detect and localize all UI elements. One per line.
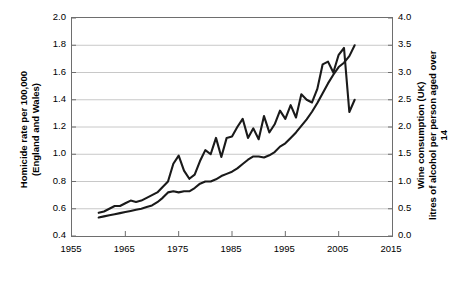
y-axis-right-ticks bbox=[388, 18, 392, 236]
y-axis-left-tick-label: 0.8 bbox=[40, 175, 66, 186]
x-axis-tick-label: 1965 bbox=[104, 243, 144, 254]
y-axis-right-tick-label: 0.0 bbox=[398, 229, 424, 240]
x-axis-ticks bbox=[125, 231, 338, 236]
y-axis-right-tick-label: 1.5 bbox=[398, 147, 424, 158]
y-axis-left-tick-label: 0.4 bbox=[40, 229, 66, 240]
y-axis-right-tick-label: 2.5 bbox=[398, 93, 424, 104]
y-axis-left-tick-label: 1.2 bbox=[40, 120, 66, 131]
y-axis-right-tick-label: 0.5 bbox=[398, 202, 424, 213]
y-axis-left-tick-label: 0.6 bbox=[40, 202, 66, 213]
x-axis-tick-label: 2005 bbox=[318, 243, 358, 254]
y-axis-left-tick-label: 1.0 bbox=[40, 147, 66, 158]
y-axis-right-tick-label: 1.0 bbox=[398, 175, 424, 186]
y-axis-left-tick-label: 1.6 bbox=[40, 66, 66, 77]
y-axis-right-tick-label: 4.0 bbox=[398, 11, 424, 22]
gridlines bbox=[72, 45, 392, 209]
series-line-wine-consumption bbox=[99, 45, 355, 217]
y-axis-left-tick-label: 1.8 bbox=[40, 38, 66, 49]
y-axis-right-tick-label: 2.0 bbox=[398, 120, 424, 131]
y-axis-left-tick-label: 2.0 bbox=[40, 11, 66, 22]
x-axis-tick-label: 1985 bbox=[211, 243, 251, 254]
chart-figure: Homicide rate per 100,000 (England and W… bbox=[0, 0, 461, 281]
y-axis-left-ticks bbox=[72, 18, 76, 236]
y-axis-right-tick-label: 3.5 bbox=[398, 38, 424, 49]
y-axis-left-title: Homicide rate per 100,000 (England and W… bbox=[18, 45, 41, 215]
x-axis-tick-label: 1955 bbox=[51, 243, 91, 254]
y-axis-left-tick-label: 1.4 bbox=[40, 93, 66, 104]
plot-svg bbox=[72, 18, 392, 236]
y-axis-right-tick-label: 3.0 bbox=[398, 66, 424, 77]
plot-area bbox=[71, 17, 393, 237]
x-axis-tick-label: 2015 bbox=[371, 243, 411, 254]
x-axis-tick-label: 1975 bbox=[158, 243, 198, 254]
x-axis-tick-label: 1995 bbox=[264, 243, 304, 254]
